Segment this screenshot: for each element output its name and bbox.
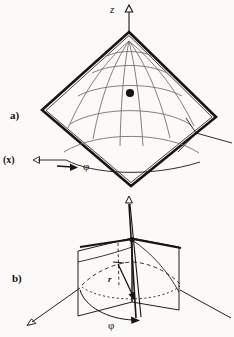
phi-arrow-a [57, 164, 78, 171]
z-axis [125, 5, 132, 33]
figure-drawing [0, 0, 234, 337]
intersection-node [129, 237, 134, 242]
panel-b-drawing [27, 196, 231, 326]
label-panel-b: b) [12, 273, 22, 284]
b-right-axis [180, 290, 231, 318]
surface-point-marker [126, 89, 134, 97]
x-axis [33, 157, 66, 164]
label-axis-z: z [110, 4, 114, 15]
label-phi-panel-a: φ [83, 161, 89, 172]
b-left-axis [27, 288, 80, 326]
figure-container: z a) (x) φ b) r φ [0, 0, 234, 337]
b-vertical-axis [126, 196, 141, 318]
sphere-parallels [64, 52, 199, 154]
diamond-frame [42, 32, 216, 186]
b-axis-arrowhead-icon [126, 196, 133, 203]
label-axis-x: (x) [3, 155, 15, 165]
label-panel-a: a) [10, 110, 19, 121]
label-phi-panel-b: φ [108, 320, 114, 331]
panel-a-drawing [33, 5, 232, 186]
label-vector-r: r [108, 275, 112, 284]
z-axis-arrowhead-icon [125, 5, 132, 12]
